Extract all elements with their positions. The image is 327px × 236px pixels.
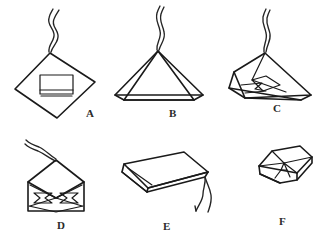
panel-label-a: A	[86, 108, 94, 119]
figure-plate: A B C D E F	[0, 0, 327, 236]
panel-label-e: E	[163, 221, 171, 232]
figure-drawing-canvas	[0, 0, 327, 236]
panel-label-b: B	[169, 108, 177, 119]
panel-a-drawing	[15, 9, 95, 118]
panel-label-f: F	[279, 216, 286, 227]
panel-label-c: C	[273, 103, 281, 114]
panel-e-drawing	[122, 152, 211, 212]
panel-d-drawing	[25, 140, 84, 212]
panel-f-drawing	[259, 146, 312, 183]
panel-label-d: D	[57, 220, 65, 231]
panel-b-drawing	[115, 6, 203, 100]
panel-c-drawing	[229, 9, 311, 100]
